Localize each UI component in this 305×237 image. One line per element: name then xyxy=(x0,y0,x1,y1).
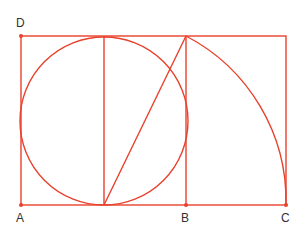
label-a: A xyxy=(16,211,24,225)
diagonal-half-square xyxy=(104,36,186,205)
point-b-dot xyxy=(184,203,188,207)
label-c: C xyxy=(281,211,290,225)
label-d: D xyxy=(16,16,25,30)
point-c-dot xyxy=(284,203,288,207)
outer-rectangle xyxy=(21,36,286,205)
label-b: B xyxy=(181,211,189,225)
point-d-dot xyxy=(19,34,23,38)
golden-rectangle-diagram: D A B C xyxy=(0,0,305,237)
golden-arc xyxy=(186,36,286,205)
point-a-dot xyxy=(19,203,23,207)
